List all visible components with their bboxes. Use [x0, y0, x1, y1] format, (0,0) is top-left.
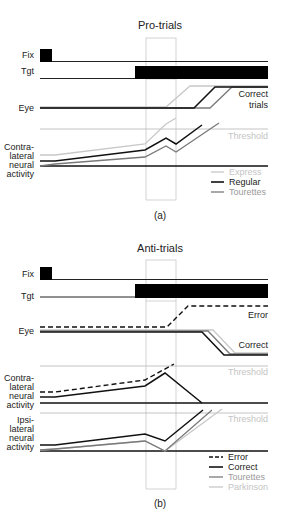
ipsi-tourettes-trace [40, 410, 212, 451]
fix-label: Fix [22, 50, 34, 60]
contra-correct-trace [40, 373, 202, 403]
legend-a: Express Regular Tourettes [211, 167, 267, 197]
correct-label: Correct [238, 340, 268, 350]
panel-b: Anti-trials Fix Tgt Eye Error Correct Th… [4, 242, 269, 509]
panel-b-caption: (b) [154, 498, 166, 509]
legend-a-tourettes: Tourettes [229, 187, 267, 197]
threshold-label-b1: Threshold [228, 367, 268, 377]
ipsi-parkinson-trace [40, 409, 222, 451]
tgt-label-b: Tgt [21, 291, 35, 301]
panel-b-title: Anti-trials [137, 242, 183, 254]
eye-parkinson-trace [40, 330, 268, 353]
eye-tourettes-trace [40, 87, 268, 108]
eye-error-trace [40, 306, 268, 327]
neural-express-trace [40, 118, 176, 155]
panel-a-caption: (a) [154, 210, 166, 221]
correct-trials-label-2: trials [249, 100, 269, 110]
panel-a-title: Pro-trials [138, 19, 183, 31]
legend-b-correct: Correct [228, 462, 258, 472]
error-label: Error [248, 310, 268, 320]
figure: Pro-trials Fix Tgt Eye Correct trials Th… [0, 0, 284, 522]
legend-b: Error Correct Tourettes Parkinson [209, 452, 268, 492]
threshold-label: Threshold [228, 131, 268, 141]
contra-label-4: activity [6, 400, 34, 410]
neural-label-4: activity [6, 169, 34, 179]
eye-label: Eye [18, 103, 34, 113]
tgt-pulse-b [135, 284, 268, 298]
fix-label-b: Fix [22, 269, 34, 279]
ipsi-label-4: activity [6, 442, 34, 452]
legend-a-regular: Regular [229, 177, 261, 187]
correct-trials-label-1: Correct [238, 89, 268, 99]
threshold-label-b2: Threshold [228, 414, 268, 424]
legend-b-parkinson: Parkinson [228, 482, 268, 492]
legend-b-error: Error [228, 452, 248, 462]
tgt-label: Tgt [21, 66, 35, 76]
fix-pulse-b [40, 267, 52, 280]
legend-a-express: Express [229, 167, 262, 177]
contra-error-trace [40, 364, 174, 392]
legend-b-tourettes: Tourettes [228, 472, 266, 482]
fix-pulse [40, 49, 52, 62]
eye-regular-trace [40, 87, 268, 108]
eye-label-b: Eye [18, 326, 34, 336]
eye-tourettes-trace-b [40, 331, 268, 354]
neural-regular-trace [40, 125, 202, 161]
tgt-pulse [135, 66, 268, 79]
eye-express-trace [40, 86, 268, 107]
panel-a: Pro-trials Fix Tgt Eye Correct trials Th… [4, 19, 269, 221]
